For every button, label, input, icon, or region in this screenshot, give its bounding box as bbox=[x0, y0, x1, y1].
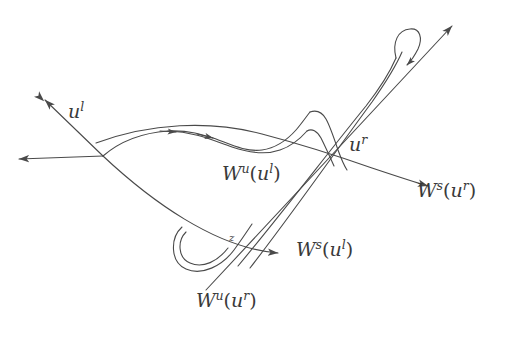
label-u-right: ur bbox=[349, 134, 367, 154]
label-ws-ul-base: W bbox=[296, 238, 316, 260]
wu-ul-main-curve bbox=[103, 112, 310, 156]
label-u-left: ul bbox=[68, 101, 84, 121]
label-wu-ur-sup: u bbox=[216, 288, 224, 303]
label-ws-ur: Ws(ur) bbox=[417, 180, 476, 200]
manifold-tangle-figure: ul ur Wu(ul) Ws(ur) Ws(ul) Wu(ur) z bbox=[0, 0, 523, 341]
wu-ul-secondary-strand bbox=[168, 131, 307, 153]
label-wu-ul-sup: u bbox=[242, 161, 250, 176]
label-wu-ur-base: W bbox=[196, 289, 216, 311]
label-ws-ul: Ws(ul) bbox=[296, 239, 353, 259]
label-ws-ul-arg-base: u bbox=[329, 238, 341, 260]
label-z-point: z bbox=[229, 233, 234, 243]
wu-ur-third-strand bbox=[250, 52, 402, 268]
lower-fold-inner bbox=[180, 232, 228, 265]
label-u-right-base: u bbox=[349, 133, 361, 155]
label-wu-ul-base: W bbox=[222, 162, 242, 184]
label-wu-ur-arg-base: u bbox=[231, 289, 243, 311]
label-wu-ul: Wu(ul) bbox=[222, 163, 281, 183]
label-z-base: z bbox=[229, 232, 234, 243]
label-wu-ul-arg-base: u bbox=[257, 162, 269, 184]
label-ws-ur-base: W bbox=[417, 179, 437, 201]
label-u-right-sup: r bbox=[361, 132, 367, 147]
label-wu-ur: Wu(ur) bbox=[196, 290, 257, 310]
label-u-left-sup: l bbox=[80, 99, 84, 114]
wu-ul-left-branch bbox=[19, 156, 103, 159]
label-u-left-base: u bbox=[68, 100, 80, 122]
label-ws-ur-arg-base: u bbox=[450, 179, 462, 201]
